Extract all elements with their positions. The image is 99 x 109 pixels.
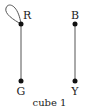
node-y [73, 79, 78, 84]
node-r [19, 22, 24, 27]
node-label-y: Y [70, 85, 79, 98]
node-label-g: G [17, 85, 26, 98]
graph-diagram: R G B Y cube 1 [0, 0, 99, 109]
node-g [19, 79, 24, 84]
diagram-caption: cube 1 [33, 97, 67, 108]
node-b [73, 22, 78, 27]
node-label-r: R [23, 9, 32, 22]
node-label-b: B [71, 9, 79, 22]
edge-loop-r [6, 5, 21, 24]
